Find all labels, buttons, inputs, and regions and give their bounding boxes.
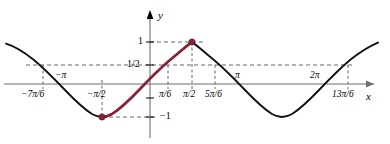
sine-curve-figure: y x 1 1/2 −1 −7π/6 −π/2 π/6 π/2 5π/6 13π… xyxy=(0,0,390,144)
y-tick-label-one-half: 1/2 xyxy=(127,59,140,69)
x-tick-label-13pi-6: 13π/6 xyxy=(332,90,354,100)
x-tick-label-pi-2: π/2 xyxy=(183,90,195,100)
x-tick-label-pi-6: π/6 xyxy=(159,90,171,100)
y-axis-label: y xyxy=(158,10,163,21)
x-axis-arrow xyxy=(366,81,374,88)
x-tick-label-5pi-6: 5π/6 xyxy=(205,90,222,100)
y-tick-label-minus-1: −1 xyxy=(160,111,171,121)
x-tick-label-minus-pi: −π xyxy=(55,71,66,81)
x-axis-label: x xyxy=(366,91,371,102)
x-tick-label-minus-7pi-6: −7π/6 xyxy=(21,90,44,100)
x-tick-label-2pi: 2π xyxy=(310,71,320,81)
y-axis xyxy=(147,10,154,138)
y-tick-label-1: 1 xyxy=(138,36,143,46)
maximum-point-marker xyxy=(189,39,195,45)
x-tick-label-pi: π xyxy=(235,71,240,81)
x-tick-label-minus-pi-2: −π/2 xyxy=(87,90,106,100)
highlighted-branch xyxy=(102,42,192,117)
minimum-point-marker xyxy=(99,114,105,120)
y-axis-arrow xyxy=(147,10,154,19)
